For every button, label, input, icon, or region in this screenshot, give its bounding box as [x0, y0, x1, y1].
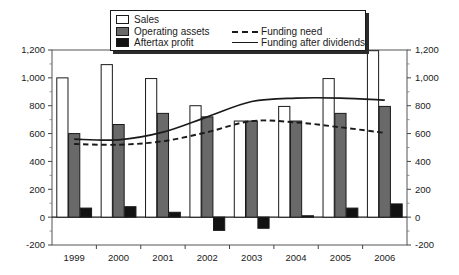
operating-assets-swatch-icon: [116, 27, 129, 36]
left-axis-tick-label: 600: [29, 128, 45, 139]
category-label: 2001: [152, 252, 173, 263]
left-axis-tick-label: 200: [29, 184, 45, 195]
solid-line-icon: [232, 38, 258, 47]
left-axis-tick-label: 400: [29, 156, 45, 167]
bar-aftertax-profit: [80, 208, 91, 217]
legend-label-aftertax-profit: Aftertax profit: [134, 37, 193, 49]
legend-label-sales: Sales: [134, 14, 159, 26]
category-label: 2003: [241, 252, 262, 263]
right-axis-tick-label: 600: [415, 128, 431, 139]
left-axis-tick-label: 1,200: [21, 44, 45, 55]
legend-item-sales: Sales: [116, 14, 232, 26]
left-axis-tick-label: 0: [40, 212, 45, 223]
category-label: 2000: [108, 252, 129, 263]
legend-item-funding-need: Funding need: [232, 26, 365, 38]
bar-operating-assets: [379, 106, 390, 217]
right-axis-tick-label: 1,200: [415, 44, 439, 55]
bar-operating-assets: [335, 113, 346, 217]
bar-operating-assets: [69, 134, 80, 218]
legend-label-funding-need: Funding need: [261, 26, 322, 38]
category-label: 2005: [330, 252, 351, 263]
bar-sales: [323, 79, 334, 218]
bar-aftertax-profit: [347, 208, 358, 217]
bar-aftertax-profit: [391, 204, 402, 217]
bar-sales: [57, 78, 68, 217]
category-label: 2002: [197, 252, 218, 263]
right-axis-tick-label: 0: [415, 212, 420, 223]
aftertax-profit-swatch-icon: [116, 38, 129, 47]
chart-figure: 1,2001,2001,0001,00080080060060040040020…: [0, 0, 459, 275]
right-axis-tick-label: 400: [415, 156, 431, 167]
right-axis-tick-label: 200: [415, 184, 431, 195]
legend-column-lines: Funding need Funding after dividends: [232, 14, 365, 50]
dashed-line-icon: [232, 27, 258, 36]
bar-sales: [146, 79, 157, 218]
bar-sales: [367, 51, 378, 217]
bar-sales: [234, 121, 245, 217]
legend-label-funding-after-dividends: Funding after dividends: [261, 37, 365, 49]
bar-sales: [279, 106, 290, 217]
chart-legend: Sales Operating assets Aftertax profit F…: [110, 10, 366, 51]
bar-operating-assets: [290, 121, 301, 217]
right-axis-tick-label: -200: [415, 239, 434, 250]
bar-aftertax-profit: [302, 216, 313, 217]
legend-item-operating-assets: Operating assets: [116, 26, 232, 38]
legend-column-bars: Sales Operating assets Aftertax profit: [116, 14, 232, 50]
sales-swatch-icon: [116, 15, 129, 24]
legend-label-operating-assets: Operating assets: [134, 26, 210, 38]
bar-aftertax-profit: [169, 212, 180, 217]
category-label: 2006: [374, 252, 395, 263]
left-axis-tick-label: 800: [29, 100, 45, 111]
right-axis-tick-label: 800: [415, 100, 431, 111]
legend-item-funding-after-dividends: Funding after dividends: [232, 37, 365, 49]
bar-operating-assets: [246, 121, 257, 217]
bar-aftertax-profit: [214, 217, 225, 230]
right-axis-tick-label: 1,000: [415, 72, 439, 83]
left-axis-tick-label: -200: [26, 239, 45, 250]
legend-item-aftertax-profit: Aftertax profit: [116, 37, 232, 49]
bar-aftertax-profit: [258, 217, 269, 228]
left-axis-tick-label: 1,000: [21, 72, 45, 83]
bar-operating-assets: [157, 113, 168, 217]
category-label: 2004: [285, 252, 306, 263]
category-label: 1999: [64, 252, 85, 263]
bar-operating-assets: [113, 125, 124, 218]
bar-aftertax-profit: [125, 207, 136, 217]
